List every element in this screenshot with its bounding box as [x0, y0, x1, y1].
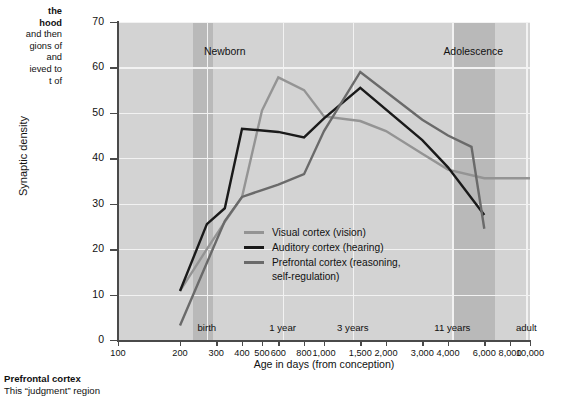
- x-axis-tick: [242, 341, 243, 346]
- y-axis-tick-label: 20: [62, 242, 104, 254]
- x-axis-tick: [386, 341, 387, 346]
- plot-inner: [118, 22, 530, 340]
- legend-swatch: [244, 246, 264, 249]
- y-axis-tick-label: 10: [62, 288, 104, 300]
- figure-stage: the hood and then gions of and ieved to …: [0, 0, 567, 405]
- chart-figure: 010203040506070 1002003004005006008001,0…: [0, 0, 567, 370]
- y-axis-tick: [110, 249, 118, 250]
- legend-swatch: [244, 231, 264, 234]
- x-axis-tick-label: 3,000: [411, 348, 434, 358]
- y-axis-tick-label: 70: [62, 15, 104, 27]
- legend-label: Auditory cortex (hearing): [272, 241, 384, 255]
- x-axis-tick-label: 200: [172, 348, 187, 358]
- x-axis-tick: [304, 341, 305, 346]
- x-axis-tick: [510, 341, 511, 346]
- x-axis-tick-label: 6,000: [473, 348, 496, 358]
- age-marker-label: 1 year: [269, 322, 296, 333]
- y-axis-tick: [110, 67, 118, 68]
- y-axis-tick-label: 30: [62, 197, 104, 209]
- x-axis-tick: [360, 341, 361, 346]
- x-axis-tick: [530, 341, 531, 346]
- x-axis-tick-label: 2,000: [375, 348, 398, 358]
- series-layer: [118, 22, 530, 340]
- x-axis-tick-label: 400: [234, 348, 249, 358]
- y-axis-line: [117, 21, 119, 341]
- y-axis-tick-label: 40: [62, 151, 104, 163]
- caption-bottom-heading: Prefrontal cortex: [4, 373, 204, 385]
- x-axis-tick: [448, 341, 449, 346]
- x-axis-title: Age in days (from conception): [118, 358, 530, 370]
- age-marker-label: adult: [516, 322, 537, 333]
- y-axis-tick: [110, 295, 118, 296]
- legend-label: Visual cortex (vision): [272, 226, 366, 240]
- x-axis-tick: [278, 341, 279, 346]
- x-axis-tick-label: 800: [296, 348, 311, 358]
- y-axis-tick: [110, 22, 118, 23]
- legend-label: Prefrontal cortex (reasoning, self-regul…: [272, 256, 401, 283]
- y-axis-tick: [110, 158, 118, 159]
- y-axis-title: Synaptic density: [17, 71, 29, 241]
- y-axis-tick-label: 50: [62, 106, 104, 118]
- x-axis-tick: [422, 341, 423, 346]
- y-axis-tick: [110, 204, 118, 205]
- x-axis-tick-label: 500: [254, 348, 269, 358]
- x-axis-tick: [180, 341, 181, 346]
- era-label: Adolescence: [443, 46, 503, 57]
- legend-item: Prefrontal cortex (reasoning, self-regul…: [244, 256, 401, 283]
- y-axis-tick: [110, 340, 118, 341]
- x-axis-tick-label: 300: [209, 348, 224, 358]
- x-axis-tick: [262, 341, 263, 346]
- y-axis-tick-label: 60: [62, 60, 104, 72]
- caption-bottom-text: Prefrontal cortex This “judgment” region: [4, 373, 204, 397]
- x-axis-tick-label: 100: [110, 348, 125, 358]
- legend-swatch: [244, 261, 264, 264]
- x-axis-tick-label: 10,000: [516, 348, 544, 358]
- chart-legend: Visual cortex (vision)Auditory cortex (h…: [244, 226, 401, 285]
- x-axis-tick-label: 1,500: [349, 348, 372, 358]
- x-axis-tick-label: 4,000: [437, 348, 460, 358]
- x-axis-tick: [118, 341, 119, 346]
- x-axis-tick: [324, 341, 325, 346]
- era-label: Newborn: [204, 46, 246, 57]
- caption-bottom-line: This “judgment” region: [4, 385, 100, 396]
- y-axis-tick: [110, 113, 118, 114]
- y-axis-tick-label: 0: [62, 333, 104, 345]
- x-axis-tick-label: 1,000: [313, 348, 336, 358]
- age-marker-label: 3 years: [337, 322, 368, 333]
- legend-item: Auditory cortex (hearing): [244, 241, 401, 255]
- plot-area: [118, 22, 530, 340]
- age-marker-label: birth: [198, 322, 217, 333]
- x-axis-tick-label: 600: [271, 348, 286, 358]
- age-marker-label: 11 years: [434, 322, 470, 333]
- legend-item: Visual cortex (vision): [244, 226, 401, 240]
- x-axis-tick: [484, 341, 485, 346]
- x-axis-tick: [216, 341, 217, 346]
